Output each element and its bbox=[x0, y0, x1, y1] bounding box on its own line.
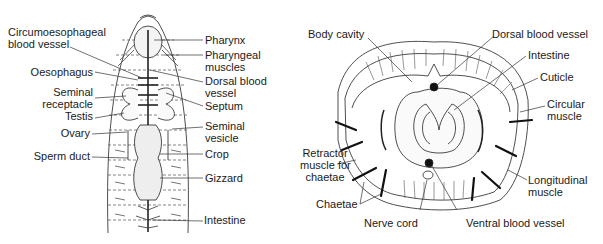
label-seminal-receptacle: Seminal receptacle bbox=[42, 86, 93, 110]
label-crop: Crop bbox=[205, 148, 229, 160]
label-oesophagus: Oesophagus bbox=[31, 66, 93, 78]
label-seminal-vesicle: Seminal vesicle bbox=[205, 120, 245, 144]
label-sperm-duct: Sperm duct bbox=[34, 150, 90, 162]
label-line: Circular bbox=[547, 98, 585, 110]
label-longitudinal-muscle: Longitudinal muscle bbox=[528, 174, 587, 198]
label-line: Seminal bbox=[205, 120, 245, 132]
label-line: Pharyngeal bbox=[205, 49, 261, 61]
label-line: chaetae bbox=[300, 171, 350, 183]
label-line: Longitudinal bbox=[528, 174, 587, 186]
label-line: muscles bbox=[205, 61, 261, 73]
label-dorsal-blood-vessel: Dorsal blood vessel bbox=[492, 28, 588, 40]
label-gizzard: Gizzard bbox=[205, 172, 243, 184]
label-testis: Testis bbox=[65, 110, 93, 122]
label-line: Dorsal blood bbox=[205, 75, 267, 87]
label-line: Circumoesophageal bbox=[8, 26, 106, 38]
label-line: muscle bbox=[528, 186, 587, 198]
label-circular-muscle: Circular muscle bbox=[547, 98, 585, 122]
label-line: blood vessel bbox=[8, 38, 106, 50]
label-line: vesicle bbox=[205, 132, 245, 144]
label-line: muscle bbox=[547, 110, 585, 122]
label-line: vessel bbox=[205, 87, 267, 99]
label-dorsal-blood-vessel-left: Dorsal blood vessel bbox=[205, 75, 267, 99]
label-line: muscle for bbox=[300, 159, 350, 171]
label-nerve-cord: Nerve cord bbox=[364, 217, 418, 229]
label-body-cavity: Body cavity bbox=[308, 28, 364, 40]
label-intestine: Intestine bbox=[528, 49, 570, 61]
label-pharynx: Pharynx bbox=[205, 34, 245, 46]
label-chaetae: Chaetae bbox=[316, 198, 358, 210]
label-line: Retractor bbox=[300, 147, 350, 159]
label-intestine-left: Intestine bbox=[204, 214, 246, 226]
label-cuticle: Cuticle bbox=[540, 71, 574, 83]
label-ventral-blood-vessel: Ventral blood vessel bbox=[466, 217, 564, 229]
label-circumoesophageal-vessel: Circumoesophageal blood vessel bbox=[8, 26, 106, 50]
label-pharyngeal-muscles: Pharyngeal muscles bbox=[205, 49, 261, 73]
label-retractor-muscle: Retractor muscle for chaetae bbox=[300, 147, 350, 183]
label-septum: Septum bbox=[205, 100, 243, 112]
label-line: Seminal bbox=[42, 86, 93, 98]
cross-section-drawing bbox=[336, 36, 545, 210]
label-line: receptacle bbox=[42, 98, 93, 110]
label-ovary: Ovary bbox=[61, 127, 90, 139]
